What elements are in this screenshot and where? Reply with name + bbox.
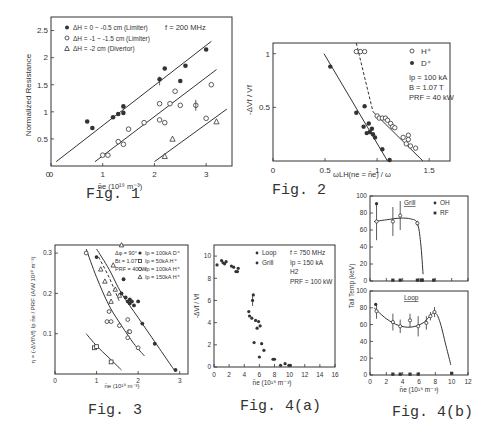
data-point bbox=[138, 259, 141, 262]
fit-curve bbox=[374, 308, 451, 365]
y-tick-label: 0.1 bbox=[43, 330, 52, 337]
data-point bbox=[100, 153, 105, 158]
x-tick-label: 12 bbox=[301, 371, 309, 378]
x-tick-label: 6 bbox=[417, 378, 421, 385]
data-point bbox=[157, 101, 162, 106]
legend-label: Loop bbox=[262, 249, 277, 257]
data-point bbox=[401, 135, 405, 139]
data-point bbox=[209, 82, 214, 87]
data-point bbox=[128, 330, 132, 334]
y-tick-label: 20 bbox=[360, 260, 368, 267]
annotation: H2 bbox=[290, 268, 299, 275]
fit-curve bbox=[86, 334, 121, 370]
data-point bbox=[256, 327, 259, 330]
data-point bbox=[178, 103, 183, 108]
data-point bbox=[256, 262, 259, 265]
data-point bbox=[121, 111, 126, 116]
annotation: f = 200 MHz bbox=[165, 23, 206, 32]
x-tick-label: 1.5 bbox=[424, 166, 436, 175]
y-tick-label: 60 bbox=[360, 226, 368, 233]
data-point bbox=[354, 111, 358, 115]
y-tick-label: 100 bbox=[356, 287, 367, 294]
figure-canvas: 01230.511.522.50ΔH = 0 ~ -0.5 cm (Limite… bbox=[0, 0, 498, 437]
annotation: Ip = 100 kA bbox=[409, 73, 447, 82]
y-tick-label: 0 bbox=[363, 277, 367, 284]
x-tick-label: 2 bbox=[227, 371, 231, 378]
y-tick-label: 2.5 bbox=[37, 26, 49, 35]
data-point bbox=[65, 36, 69, 40]
y-tick-label: 0 bbox=[363, 371, 367, 378]
data-point bbox=[406, 133, 410, 137]
data-point bbox=[429, 315, 432, 318]
data-point bbox=[393, 126, 397, 130]
data-point bbox=[399, 214, 402, 217]
annotation: Δφ = 90° bbox=[115, 250, 137, 256]
data-point bbox=[289, 364, 292, 367]
data-point bbox=[362, 49, 366, 53]
data-point bbox=[109, 320, 113, 324]
y-axis-label: Tail Temp (keV) bbox=[348, 264, 356, 309]
data-point bbox=[178, 79, 183, 84]
data-point bbox=[126, 127, 131, 132]
data-point bbox=[417, 325, 420, 328]
data-point bbox=[252, 341, 255, 344]
data-point bbox=[450, 372, 453, 375]
x-tick-label: 12 bbox=[464, 378, 472, 385]
data-point bbox=[279, 364, 282, 367]
data-point bbox=[126, 318, 130, 322]
data-point bbox=[232, 266, 235, 269]
y-tick-label: 40 bbox=[360, 243, 368, 250]
x-tick-label: 0.5 bbox=[319, 166, 331, 175]
data-point bbox=[162, 66, 167, 71]
y-tick-label: 80 bbox=[360, 304, 368, 311]
x-tick-label: 16 bbox=[331, 371, 339, 378]
legend-label: ΔH = -1 ~ -1.5 cm (Limiter) bbox=[73, 35, 150, 43]
x-tick-label: 14 bbox=[316, 371, 324, 378]
data-point bbox=[262, 349, 265, 352]
label: 0 bbox=[46, 170, 51, 179]
data-point bbox=[174, 368, 178, 372]
data-point bbox=[380, 147, 384, 151]
legend-label: D⁺ bbox=[421, 59, 431, 68]
x-tick-label: 10 bbox=[448, 378, 456, 385]
data-point bbox=[136, 346, 140, 350]
data-point bbox=[225, 260, 228, 263]
data-point bbox=[258, 355, 261, 358]
y-tick-label: 0.3 bbox=[43, 249, 52, 256]
data-point bbox=[136, 300, 140, 304]
data-point bbox=[433, 310, 436, 313]
data-point bbox=[103, 279, 107, 283]
data-point bbox=[254, 319, 257, 322]
y-tick-label: 10 bbox=[204, 252, 212, 259]
data-point bbox=[247, 310, 250, 313]
data-point bbox=[367, 121, 371, 125]
y-tick-label: 8 bbox=[207, 275, 211, 282]
data-point bbox=[434, 212, 437, 215]
data-point bbox=[138, 275, 142, 279]
data-point bbox=[118, 324, 122, 328]
data-point bbox=[65, 26, 69, 30]
fig1-chart: 01230.511.522.50ΔH = 0 ~ -0.5 cm (Limite… bbox=[24, 17, 232, 191]
annotation: PRF = 40kW bbox=[115, 266, 147, 272]
legend-label: Ip = 100kA H⁺ bbox=[145, 266, 180, 272]
x-tick-label: 2 bbox=[385, 378, 389, 385]
data-point bbox=[362, 104, 366, 108]
data-point bbox=[410, 49, 414, 53]
annotation: Bt = 1.07T bbox=[115, 258, 141, 264]
data-point bbox=[260, 342, 263, 345]
data-point bbox=[236, 270, 239, 273]
data-point bbox=[256, 252, 259, 255]
data-point bbox=[113, 287, 117, 291]
plot-frame bbox=[55, 245, 188, 374]
data-point bbox=[370, 127, 374, 131]
legend-label: Ip = 150kA H⁺ bbox=[145, 274, 180, 280]
data-point bbox=[122, 277, 126, 281]
data-point bbox=[183, 63, 188, 68]
x-axis-label: n̄e (10¹⁹ m⁻³) bbox=[400, 386, 439, 394]
data-point bbox=[399, 325, 402, 328]
fit-curve bbox=[374, 218, 423, 274]
legend-label: ΔH = 0 ~ -0.5 cm (Limiter) bbox=[73, 24, 148, 32]
data-point bbox=[434, 202, 437, 205]
data-point bbox=[105, 320, 109, 324]
legend-label: OH bbox=[440, 199, 450, 206]
